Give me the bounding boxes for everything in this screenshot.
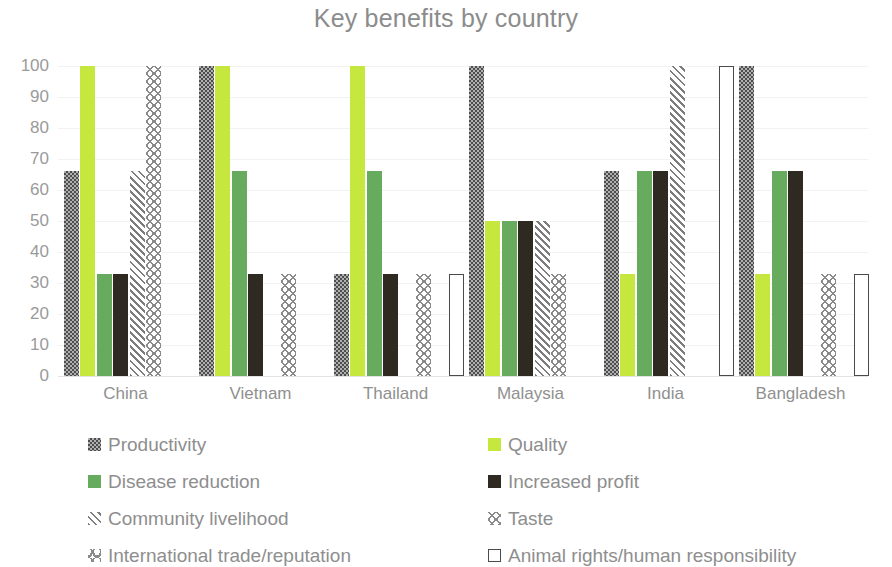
bar: [350, 66, 365, 376]
legend-swatch-icon: [488, 438, 501, 451]
bar: [469, 66, 484, 376]
legend-row: Community livelihoodTaste: [88, 500, 878, 537]
y-axis-tick-label: 0: [5, 367, 49, 384]
y-axis-tick-label: 50: [5, 212, 49, 229]
chart-container: Key benefits by country 1009080706050403…: [0, 0, 892, 567]
legend-swatch-icon: [488, 475, 501, 488]
bar: [772, 171, 787, 376]
gridline: [58, 376, 868, 377]
bar: [334, 274, 349, 376]
bar: [719, 66, 734, 376]
bar: [670, 66, 685, 376]
legend-swatch-icon: [488, 512, 501, 525]
y-axis-tick-label: 30: [5, 274, 49, 291]
bar: [113, 274, 128, 376]
bar: [199, 66, 214, 376]
legend-item-increased-profit[interactable]: Increased profit: [488, 472, 868, 491]
legend-item-taste[interactable]: Taste: [488, 509, 868, 528]
legend-item-productivity[interactable]: Productivity: [88, 435, 488, 454]
y-axis-tick-label: 60: [5, 181, 49, 198]
legend-label: Disease reduction: [108, 472, 260, 491]
bar-group: [328, 66, 463, 376]
bar: [604, 171, 619, 376]
y-axis-tick-label: 90: [5, 88, 49, 105]
legend-label: International trade/reputation: [108, 546, 351, 565]
y-axis-tick-label: 80: [5, 119, 49, 136]
legend-item-community-livelihood[interactable]: Community livelihood: [88, 509, 488, 528]
chart-title: Key benefits by country: [0, 4, 892, 33]
x-axis-label-malaysia: Malaysia: [456, 384, 606, 404]
x-axis-label-india: India: [591, 384, 741, 404]
legend-swatch-icon: [88, 549, 101, 562]
legend-item-animal-rights-human-responsibility[interactable]: Animal rights/human responsibility: [488, 546, 868, 565]
legend-item-international-trade-reputation[interactable]: International trade/reputation: [88, 546, 488, 565]
bar: [367, 171, 382, 376]
legend-swatch-icon: [88, 512, 101, 525]
legend-swatch-icon: [488, 549, 501, 562]
legend-swatch-icon: [88, 438, 101, 451]
bar: [80, 66, 95, 376]
bar: [485, 221, 500, 376]
legend-row: ProductivityQuality: [88, 426, 878, 463]
bar: [449, 274, 464, 376]
legend-swatch-icon: [88, 475, 101, 488]
legend-label: Taste: [508, 509, 553, 528]
plot-area: [58, 66, 868, 376]
bar: [788, 171, 803, 376]
bar: [821, 274, 836, 376]
bar-group: [598, 66, 733, 376]
legend-label: Community livelihood: [108, 509, 289, 528]
y-axis-tick-label: 70: [5, 150, 49, 167]
bar: [232, 171, 247, 376]
bar: [248, 274, 263, 376]
bar: [854, 274, 869, 376]
bar: [416, 274, 431, 376]
bar-group: [733, 66, 868, 376]
bar: [215, 66, 230, 376]
bar: [383, 274, 398, 376]
legend-label: Productivity: [108, 435, 206, 454]
y-axis-tick-label: 100: [5, 57, 49, 74]
bar: [64, 171, 79, 376]
bar-group: [463, 66, 598, 376]
legend-label: Quality: [508, 435, 567, 454]
y-axis-tick-label: 10: [5, 336, 49, 353]
x-axis-label-china: China: [51, 384, 201, 404]
legend-item-quality[interactable]: Quality: [488, 435, 868, 454]
bar: [653, 171, 668, 376]
bar: [620, 274, 635, 376]
bar: [637, 171, 652, 376]
legend-label: Increased profit: [508, 472, 639, 491]
legend-row: International trade/reputationAnimal rig…: [88, 537, 878, 567]
bar: [755, 274, 770, 376]
bar: [146, 66, 161, 376]
bar: [130, 171, 145, 376]
legend-item-disease-reduction[interactable]: Disease reduction: [88, 472, 488, 491]
y-axis-tick-label: 40: [5, 243, 49, 260]
x-axis-label-thailand: Thailand: [321, 384, 471, 404]
bar: [281, 274, 296, 376]
y-axis-tick-label: 20: [5, 305, 49, 322]
bar: [535, 221, 550, 376]
bar: [502, 221, 517, 376]
chart-legend: ProductivityQualityDisease reductionIncr…: [88, 426, 878, 567]
bar-group: [58, 66, 193, 376]
bar-group: [193, 66, 328, 376]
legend-label: Animal rights/human responsibility: [508, 546, 796, 565]
x-axis-label-bangladesh: Bangladesh: [726, 384, 876, 404]
bar: [97, 274, 112, 376]
x-axis-label-vietnam: Vietnam: [186, 384, 336, 404]
bar: [518, 221, 533, 376]
bar: [739, 66, 754, 376]
bar: [551, 274, 566, 376]
legend-row: Disease reductionIncreased profit: [88, 463, 878, 500]
